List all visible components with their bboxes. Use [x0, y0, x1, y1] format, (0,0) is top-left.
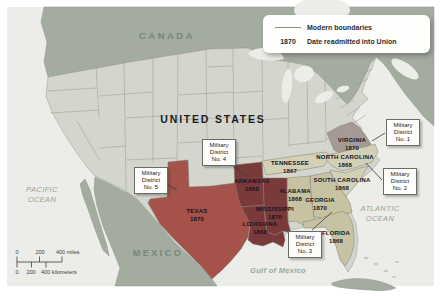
district-title: Military District	[142, 170, 161, 183]
district-number: No. 2	[385, 185, 415, 192]
pacific-line1: PACIFIC	[26, 185, 58, 194]
legend-key-cell	[269, 27, 307, 28]
state-label-virginia: VIRGINIA1870	[338, 137, 366, 152]
atlantic-ocean-label: ATLANTIC OCEAN	[361, 204, 400, 224]
state-name: MISSISSIPPI	[256, 206, 294, 214]
legend-readmitted-label: Date readmitted into Union	[307, 38, 396, 45]
state-year: 1868	[322, 237, 350, 245]
state-year: 1870	[256, 213, 294, 221]
military-district-5-callout: Military District No. 5	[134, 167, 168, 194]
mexico-label: MEXICO	[133, 248, 184, 258]
state-year: 1868	[234, 185, 270, 193]
united-states-label: UNITED STATES	[160, 113, 265, 125]
state-name: NORTH CAROLINA	[316, 154, 373, 162]
map-legend: Modern boundaries 1870 Date readmitted i…	[263, 15, 430, 53]
military-district-4-callout: Military District No. 4	[202, 139, 236, 166]
district-number: No. 3	[290, 248, 320, 255]
pacific-line2: OCEAN	[28, 195, 57, 204]
legend-modern-boundaries-row: Modern boundaries	[269, 24, 424, 31]
state-year: 1868	[279, 195, 311, 203]
legend-modern-boundaries-label: Modern boundaries	[307, 24, 372, 31]
legend-key-cell: 1870	[269, 38, 307, 45]
legend-readmitted-row: 1870 Date readmitted into Union	[269, 38, 424, 45]
district-title: Military District	[394, 122, 413, 135]
state-name: LOUISIANA	[243, 221, 278, 229]
state-label-louisiana: LOUISIANA1868	[243, 221, 278, 236]
state-year: 1867	[271, 167, 309, 175]
state-name: ARKANSAS	[234, 178, 270, 186]
state-year: 1870	[186, 215, 207, 223]
state-name: SOUTH CAROLINA	[313, 177, 370, 185]
state-name: VIRGINIA	[338, 137, 366, 145]
state-label-alabama: ALABAMA1868	[279, 188, 311, 203]
gulf-of-mexico-label: Gulf of Mexico	[250, 266, 306, 275]
reconstruction-districts-map: CANADA UNITED STATES MEXICO PACIFIC OCEA…	[0, 0, 441, 296]
scale-km-0: 0	[15, 269, 18, 275]
district-number: No. 4	[204, 156, 234, 163]
state-label-tennessee: TENNESSEE1867	[271, 160, 309, 175]
district-number: No. 5	[136, 184, 166, 191]
district-title: Military District	[296, 234, 315, 247]
state-name: TENNESSEE	[271, 160, 309, 168]
scale-miles-400: 400 miles	[56, 249, 80, 255]
district-number: No. 1	[388, 136, 418, 143]
state-label-mississippi: MISSISSIPPI1870	[256, 206, 294, 221]
state-label-south-carolina: SOUTH CAROLINA1868	[313, 177, 370, 192]
boundary-line-icon	[275, 27, 301, 28]
state-name: ALABAMA	[279, 188, 311, 196]
legend-year-sample: 1870	[280, 38, 296, 45]
atlantic-line2: OCEAN	[366, 214, 395, 223]
military-district-1-callout: Military District No. 1	[386, 119, 420, 146]
scale-miles-200: 200	[35, 249, 44, 255]
state-name: TEXAS	[186, 208, 207, 216]
state-label-texas: TEXAS1870	[186, 208, 207, 223]
district-title: Military District	[210, 142, 229, 155]
state-name: FLORIDA	[322, 230, 350, 238]
state-label-arkansas: ARKANSAS1868	[234, 178, 270, 193]
canada-label: CANADA	[139, 30, 195, 41]
district-title: Military District	[391, 171, 410, 184]
state-year: 1870	[338, 144, 366, 152]
state-label-north-carolina: NORTH CAROLINA1868	[316, 154, 373, 169]
state-label-florida: FLORIDA1868	[322, 230, 350, 245]
state-year: 1868	[243, 228, 278, 236]
pacific-ocean-label: PACIFIC OCEAN	[26, 185, 58, 205]
scale-miles-0: 0	[15, 249, 18, 255]
military-district-2-callout: Military District No. 2	[383, 168, 417, 195]
scale-km-400: 400 kilometers	[41, 269, 77, 275]
state-year: 1870	[305, 204, 335, 212]
state-year: 1868	[316, 161, 373, 169]
atlantic-line1: ATLANTIC	[361, 204, 400, 213]
state-year: 1868	[313, 184, 370, 192]
scale-km-200: 200	[26, 269, 35, 275]
military-district-3-callout: Military District No. 3	[288, 231, 322, 258]
